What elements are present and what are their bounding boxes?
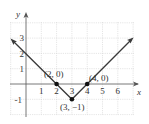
function-graph: y x 1 2 3 4 5 6 3 2 1 -1 (2, 0) (3, −1) … xyxy=(0,0,149,124)
svg-text:2: 2 xyxy=(54,86,59,96)
svg-text:4: 4 xyxy=(85,86,90,96)
point-label-2-0: (2, 0) xyxy=(44,69,64,79)
x-axis-label: x xyxy=(136,87,141,97)
svg-text:5: 5 xyxy=(100,86,105,96)
svg-text:1: 1 xyxy=(39,86,44,96)
svg-text:3: 3 xyxy=(20,33,25,43)
point-3-neg1 xyxy=(70,97,75,102)
point-2-0 xyxy=(54,82,59,87)
svg-text:6: 6 xyxy=(116,86,121,96)
point-label-4-0: (4, 0) xyxy=(89,73,109,83)
y-axis-label: y xyxy=(15,9,20,19)
point-label-3-neg1: (3, −1) xyxy=(60,102,85,112)
svg-text:-1: -1 xyxy=(15,95,23,105)
svg-text:3: 3 xyxy=(70,86,75,96)
svg-text:1: 1 xyxy=(20,64,25,74)
